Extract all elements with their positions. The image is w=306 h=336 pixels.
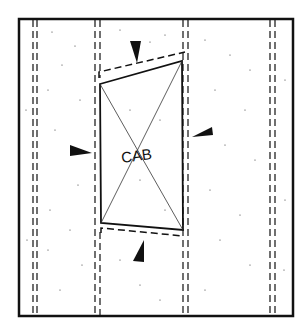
bottom-arrow-icon [133,240,144,262]
header-dashed [99,52,185,78]
wall-frame [19,19,293,316]
cabinet: CAB [100,61,183,230]
right-arrow-icon [192,127,213,137]
wall-elevation-drawing: CAB [0,0,306,336]
cabinet-label: CAB [120,145,153,166]
left-arrow-icon [70,145,92,156]
speckle-texture [25,29,285,300]
top-arrow-icon [130,41,141,63]
studs [33,20,275,315]
cabinet-diagonal-2 [101,61,182,223]
framing-header-sill [99,52,185,236]
